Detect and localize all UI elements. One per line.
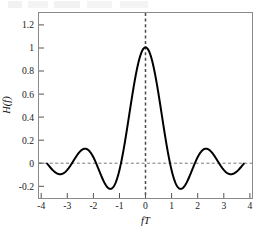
x-tick-label: 4 [248, 200, 253, 211]
y-tick-labels: -0.2 0 0.2 0.4 0.6 0.8 1 1.2 [19, 19, 34, 191]
x-tick-label: 2 [195, 200, 200, 211]
x-tick-labels: -4 -3 -2 -1 0 1 2 3 4 [37, 200, 252, 211]
y-tick-label: 0.4 [22, 112, 34, 123]
x-tick-label: -4 [37, 200, 45, 211]
x-axis-title: fT [141, 215, 151, 226]
y-tick-label: 1.2 [22, 19, 34, 30]
sinc-function-chart: -4 -3 -2 -1 0 1 2 3 4 -0.2 0 0.2 0.4 0.6… [0, 0, 264, 233]
y-tick-label: 0.6 [22, 89, 34, 100]
x-tick-label: -3 [63, 200, 71, 211]
y-tick-label: 0.8 [22, 65, 34, 76]
y-axis-title: H(f) [1, 96, 13, 115]
x-tick-label: -1 [116, 200, 124, 211]
x-tick-label: 0 [143, 200, 148, 211]
figure-container: -4 -3 -2 -1 0 1 2 3 4 -0.2 0 0.2 0.4 0.6… [0, 0, 264, 233]
y-tick-label: -0.2 [19, 181, 34, 192]
x-tick-label: -2 [89, 200, 97, 211]
y-tick-label: 0 [29, 158, 34, 169]
x-tick-label: 3 [221, 200, 226, 211]
x-tick-label: 1 [169, 200, 174, 211]
y-tick-label: 0.2 [22, 135, 34, 146]
y-tick-label: 1 [29, 42, 34, 53]
